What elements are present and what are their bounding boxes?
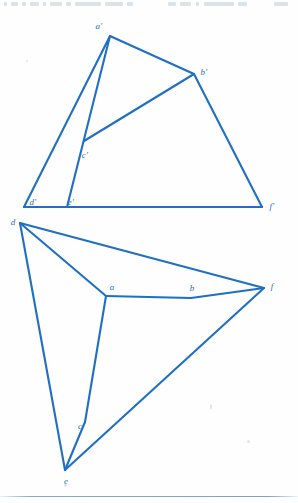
geometry-figure: [0, 0, 298, 503]
vertex-label-b: b: [190, 284, 195, 293]
upper-figure-edges: [24, 36, 262, 207]
edge-b-f: [191, 288, 264, 298]
edge-b-prime-c-prime: [84, 74, 194, 141]
edge-a-c: [85, 296, 106, 422]
footer-rule: [0, 496, 298, 497]
vertex-label-f-prime: f': [270, 202, 275, 211]
edge-d-f: [20, 223, 264, 288]
scanned-page: a' b' c' d' e' f' a b c d e f: [0, 0, 298, 503]
scan-speck: [247, 440, 250, 443]
scan-speck: [26, 60, 28, 62]
lower-figure-edges: [20, 223, 264, 470]
vertex-label-a-prime: a': [96, 22, 103, 31]
edge-a-prime-d-prime: [24, 36, 110, 207]
vertex-label-d-prime: d': [30, 198, 37, 207]
vertex-label-c-prime: c': [82, 151, 88, 160]
edge-e-f: [65, 288, 264, 470]
vertex-label-f: f: [271, 282, 274, 291]
vertex-label-e-prime: e': [68, 198, 74, 207]
edge-b-prime-f-prime: [194, 74, 262, 207]
edge-a-prime-b-prime: [110, 36, 194, 74]
vertex-label-b-prime: b': [201, 68, 208, 77]
edge-d-e: [20, 223, 65, 470]
edge-a-prime-e-prime: [67, 36, 110, 207]
vertex-label-c: c: [78, 422, 82, 431]
scan-speck: [210, 404, 212, 410]
vertex-label-d: d: [11, 218, 16, 227]
scan-speck: [64, 483, 67, 487]
vertex-label-a: a: [110, 283, 115, 292]
edge-a-b: [106, 296, 191, 298]
